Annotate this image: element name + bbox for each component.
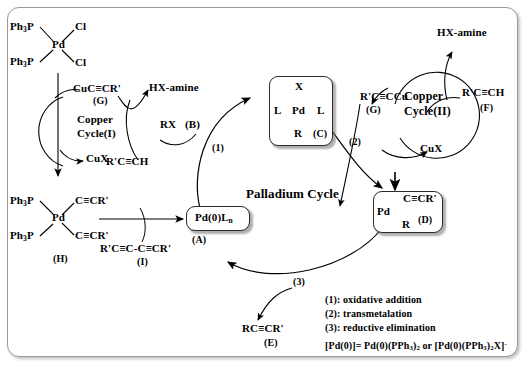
species-D-r-group: R — [402, 218, 410, 230]
legend-line-3: (3): reductive elimination — [325, 322, 436, 333]
copper-cycle-1-species-bottom: CuX — [86, 152, 108, 164]
species-H-tag: (H) — [53, 253, 68, 264]
reagent-organohalide: RX — [160, 118, 176, 130]
copper-cycle-2-species-left-tag: (G) — [366, 104, 381, 115]
precatalyst-ligand-bottom: Ph3P — [10, 55, 34, 69]
species-H-alkynyl-bottom: C≡CR' — [75, 229, 109, 241]
species-H-ligand-top: Ph3P — [10, 194, 34, 208]
species-A-tag: (A) — [192, 234, 206, 245]
copper-cycle-2-species-left: R'C≡CCu — [360, 90, 408, 102]
species-E-formula: RC≡CR' — [242, 322, 284, 334]
diagram-canvas: Ph3P Ph3P Pd Cl Cl CuC≡CR' (G) Copper Cy… — [0, 0, 531, 370]
species-A-box: Pd(0)Ln — [186, 206, 250, 231]
species-H-alkynyl-top: C≡CR' — [75, 194, 109, 206]
species-D-tag: (D) — [418, 214, 432, 225]
palladium-cycle-title: Palladium Cycle — [246, 186, 339, 202]
precatalyst-ligand-top: Ph3P — [10, 20, 34, 34]
copper-cycle-1-species-top-tag: (G) — [93, 95, 108, 106]
species-C-left-ligand: L — [274, 104, 281, 116]
crossing-left-alkyne-in: R'C≡CH — [106, 155, 148, 167]
copper-cycle-1-species-top: CuC≡CR' — [73, 82, 121, 94]
precatalyst-halide-top: Cl — [75, 20, 86, 32]
species-D-alkynyl: C≡CR' — [403, 192, 437, 204]
species-E-tag: (E) — [264, 337, 278, 348]
precatalyst-metal: Pd — [52, 38, 65, 50]
species-D-metal: Pd — [377, 205, 390, 217]
reagent-organohalide-tag: (B) — [185, 118, 200, 130]
copper-cycle-1-title-line1: Copper — [77, 113, 113, 125]
species-C-right-ligand: L — [317, 104, 324, 116]
copper-cycle-2-amine-out: HX-amine — [437, 26, 487, 38]
legend-line-1: (1): oxidative addition — [325, 294, 422, 305]
species-I-tag: (I) — [137, 256, 148, 267]
copper-cycle-2-alkyne-in-tag: (F) — [480, 102, 493, 113]
species-A-formula: Pd(0)Ln — [195, 211, 233, 225]
species-H-metal: Pd — [52, 211, 65, 223]
copper-cycle-1-title-line2: Cycle(I) — [77, 127, 116, 139]
species-I-formula: R'C≡C-C≡CR' — [100, 242, 171, 254]
step-label-1: (1) — [212, 142, 224, 153]
species-H-ligand-bottom: Ph3P — [10, 229, 34, 243]
legend-line-2: (2): transmetalation — [325, 308, 412, 319]
species-C-tag: (C) — [313, 128, 327, 139]
copper-cycle-2-title-line2: Cycle(II) — [404, 104, 451, 119]
species-C-metal: Pd — [292, 104, 305, 116]
copper-cycle-2-alkyne-in: R'C≡CH — [462, 86, 504, 98]
precatalyst-halide-bottom: Cl — [75, 56, 86, 68]
species-C-top: X — [295, 80, 303, 92]
step-label-3: (3) — [293, 276, 305, 287]
species-C-bottom: R — [294, 127, 302, 139]
step-label-2: (2) — [349, 136, 361, 147]
legend-line-4: [Pd(0)]= Pd(0)(PPh3)2 or [Pd(0)(PPh3)2X]… — [325, 340, 507, 351]
crossing-left-amine-out: HX-amine — [149, 81, 199, 93]
copper-cycle-2-title-line1: Copper — [404, 89, 443, 104]
copper-cycle-2-species-bottom: CuX — [420, 142, 442, 154]
